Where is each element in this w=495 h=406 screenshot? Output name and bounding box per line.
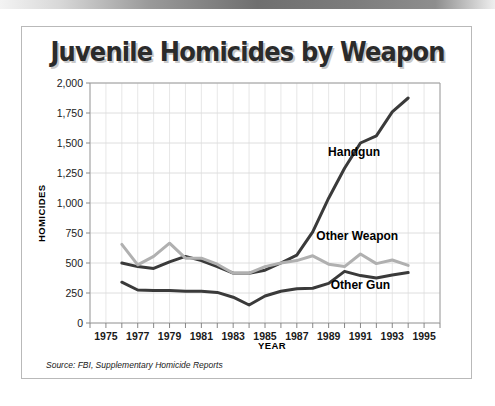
- ytick-label: 2,000: [57, 77, 83, 89]
- x-axis-title: YEAR: [258, 340, 286, 351]
- ytick-label: 1,250: [57, 167, 83, 179]
- xtick-label: 1975: [94, 330, 118, 342]
- xtick-label: 1987: [285, 330, 309, 342]
- line-chart-svg: 02505007501,0001,2501,5001,7502,000 1975…: [22, 27, 473, 380]
- ytick-label: 750: [65, 227, 83, 239]
- xtick-label: 1989: [317, 330, 341, 342]
- ytick-label: 1,500: [57, 137, 83, 149]
- y-axis-title: HOMICIDES: [36, 185, 47, 242]
- xtick-label: 1981: [190, 330, 214, 342]
- page-edge-bar: [0, 0, 495, 9]
- chart-figure-frame: Juvenile Homicides by Weapon 02505007501…: [21, 26, 472, 379]
- ytick-label: 1,000: [57, 197, 83, 209]
- xtick-label: 1983: [222, 330, 246, 342]
- ytick-label: 250: [65, 287, 83, 299]
- xtick-label: 1993: [381, 330, 405, 342]
- series-label-handgun: Handgun: [328, 145, 380, 159]
- xtick-label: 1979: [158, 330, 182, 342]
- ytick-label: 500: [65, 257, 83, 269]
- xtick-label: 1995: [412, 330, 436, 342]
- xtick-label: 1977: [126, 330, 150, 342]
- source-note: Source: FBI, Supplementary Homicide Repo…: [46, 360, 223, 370]
- ytick-labels-group: 02505007501,0001,2501,5001,7502,000: [57, 77, 83, 329]
- series-label-other-weapon: Other Weapon: [316, 229, 398, 243]
- xtick-label: 1991: [349, 330, 373, 342]
- ytick-label: 0: [77, 317, 83, 329]
- series-label-other-gun: Other Gun: [331, 278, 390, 292]
- plot-area-wrapper: 02505007501,0001,2501,5001,7502,000 1975…: [22, 27, 473, 380]
- ytick-label: 1,750: [57, 107, 83, 119]
